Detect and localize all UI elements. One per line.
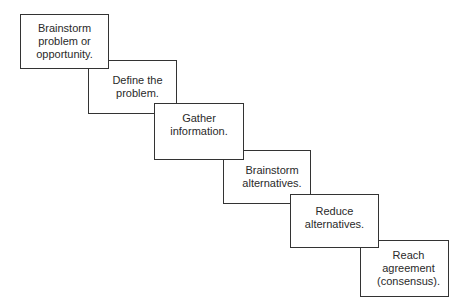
- step-1-box: Brainstorm problem or opportunity.: [20, 14, 109, 69]
- step-3-label: Gather information.: [170, 112, 227, 138]
- step-3-box: Gather information.: [154, 103, 244, 160]
- step-2-label: Define the problem.: [102, 74, 162, 100]
- step-6-label: Reach agreement (consensus).: [369, 249, 440, 288]
- step-5-box: Reduce alternatives.: [290, 194, 379, 248]
- step-4-label: Brainstorm alternatives.: [232, 164, 301, 190]
- step-1-label: Brainstorm problem or opportunity.: [36, 22, 93, 61]
- step-6-box: Reach agreement (consensus).: [360, 240, 449, 297]
- step-5-label: Reduce alternatives.: [305, 205, 364, 231]
